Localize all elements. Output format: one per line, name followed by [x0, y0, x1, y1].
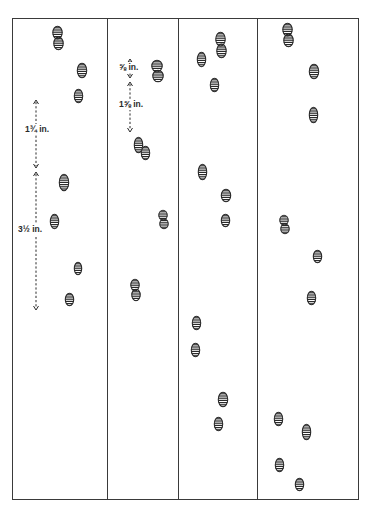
- footprint-icon: [219, 187, 233, 204]
- footprint-icon: [57, 172, 71, 193]
- footprint-icon: [75, 61, 89, 80]
- footprint-icon: [219, 212, 232, 229]
- footprint-icon: [281, 21, 295, 49]
- footprint-icon: [139, 144, 152, 162]
- footprint-icon: [157, 208, 170, 231]
- footprint-icon: [278, 213, 291, 236]
- footprint-icon: [63, 291, 76, 308]
- panel-divider: [178, 18, 179, 500]
- footprint-icon: [48, 212, 61, 231]
- footprint-icon: [189, 341, 202, 359]
- footprint-icon: [293, 476, 306, 493]
- panel-divider: [257, 18, 258, 500]
- panel-divider: [107, 18, 108, 500]
- footprint-icon: [129, 277, 142, 303]
- footprint-icon: [150, 58, 165, 84]
- footprint-icon: [51, 24, 65, 52]
- track-figure: 1¾ in.3½ in.⅝ in.1⅝ in.: [0, 0, 369, 510]
- footprint-icon: [190, 314, 203, 332]
- measurement-label: 1¾ in.: [24, 124, 50, 135]
- footprint-icon: [196, 162, 209, 182]
- footprint-icon: [272, 410, 285, 428]
- footprint-icon: [216, 390, 230, 409]
- footprint-icon: [195, 50, 208, 69]
- footprint-icon: [212, 415, 225, 433]
- footprint-icon: [72, 260, 84, 277]
- footprint-icon: [311, 248, 324, 265]
- dimension-arrow-icon: [31, 169, 41, 313]
- footprint-icon: [273, 456, 286, 474]
- footprint-icon: [307, 62, 321, 81]
- footprint-icon: [307, 105, 320, 125]
- measurement-label: ⅝ in.: [118, 62, 139, 73]
- footprint-icon: [72, 87, 85, 105]
- footprint-icon: [208, 76, 221, 94]
- footprint-icon: [214, 30, 228, 60]
- footprint-icon: [300, 422, 313, 442]
- measurement-label: 3½ in.: [17, 224, 43, 235]
- footprint-icon: [305, 289, 318, 307]
- measurement-label: 1⅝ in.: [118, 99, 144, 110]
